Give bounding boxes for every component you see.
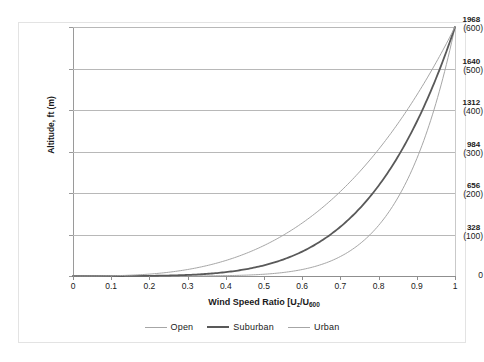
x-tick-mark xyxy=(111,276,112,280)
legend-item-suburban[interactable]: Suburban xyxy=(207,322,274,332)
x-tick-mark xyxy=(149,276,150,280)
legend-swatch-icon xyxy=(207,326,229,328)
x-tick-label: 0.1 xyxy=(91,281,131,291)
x-tick-label: 1 xyxy=(435,281,475,291)
x-axis-title-sub-z: z xyxy=(297,301,300,308)
x-tick-label: 0.2 xyxy=(129,281,169,291)
x-tick-label: 0.4 xyxy=(206,281,246,291)
x-tick-mark xyxy=(417,276,418,280)
legend-label: Suburban xyxy=(233,322,274,332)
series-curves xyxy=(73,27,455,276)
x-tick-mark xyxy=(73,276,74,280)
x-tick-label: 0.7 xyxy=(320,281,360,291)
x-tick-label: 0.5 xyxy=(244,281,284,291)
wind-profile-chart: Altitude, ft (m) 1968(600)1640(500)1312(… xyxy=(0,0,484,362)
x-tick-mark xyxy=(264,276,265,280)
x-axis-title: Wind Speed Ratio [Uz/U600 xyxy=(73,297,455,307)
x-tick-mark xyxy=(188,276,189,280)
legend-item-open[interactable]: Open xyxy=(145,322,194,332)
y-axis-title: Altitude, ft (m) xyxy=(46,70,56,180)
chart-legend: OpenSuburbanUrban xyxy=(18,322,466,332)
x-tick-mark xyxy=(455,276,456,280)
legend-label: Open xyxy=(171,322,194,332)
legend-swatch-icon xyxy=(145,327,167,328)
legend-label: Urban xyxy=(314,322,340,332)
x-tick-label: 0.3 xyxy=(168,281,208,291)
x-tick-label: 0.9 xyxy=(397,281,437,291)
plot-area xyxy=(73,27,455,276)
legend-swatch-icon xyxy=(288,327,310,328)
x-tick-mark xyxy=(379,276,380,280)
x-tick-mark xyxy=(226,276,227,280)
series-line-open xyxy=(73,27,455,276)
legend-item-urban[interactable]: Urban xyxy=(288,322,340,332)
x-axis-title-sub-600: 600 xyxy=(309,301,320,308)
x-axis-title-mid: /U xyxy=(300,297,309,307)
x-tick-label: 0 xyxy=(53,281,93,291)
series-line-suburban xyxy=(73,27,455,276)
x-tick-mark xyxy=(302,276,303,280)
x-axis-title-prefix: Wind Speed Ratio [U xyxy=(208,297,296,307)
series-line-urban xyxy=(73,27,455,276)
x-tick-mark xyxy=(340,276,341,280)
x-tick-label: 0.6 xyxy=(282,281,322,291)
x-tick-label: 0.8 xyxy=(359,281,399,291)
